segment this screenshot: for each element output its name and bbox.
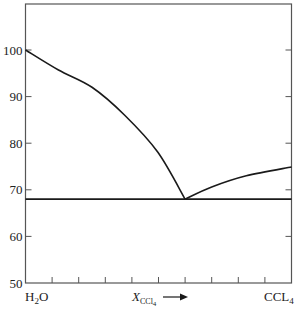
x-left-label: H2O (25, 289, 48, 306)
y-axis-ticks: 5060708090100 (3, 43, 292, 291)
y-tick-label: 90 (10, 89, 23, 104)
data-series (26, 50, 292, 199)
phase-diagram: 5060708090100 H2O XCCl4 CCL4 (0, 0, 296, 312)
y-tick-label: 50 (10, 276, 23, 291)
x-axis-labels: H2O XCCl4 CCL4 (25, 289, 294, 308)
y-tick-label: 80 (10, 136, 23, 151)
y-tick-label: 70 (10, 182, 23, 197)
y-tick-label: 100 (3, 43, 23, 58)
plot-border (26, 4, 292, 283)
x-axis-ticks (52, 277, 265, 283)
y-tick-label: 60 (10, 229, 23, 244)
x-right-label: CCL4 (264, 289, 294, 306)
series-line (26, 50, 186, 199)
series-line (185, 167, 291, 199)
x-axis-title: XCCl4 (131, 289, 157, 308)
plot-frame (26, 4, 292, 283)
arrow-right-icon (163, 294, 188, 301)
